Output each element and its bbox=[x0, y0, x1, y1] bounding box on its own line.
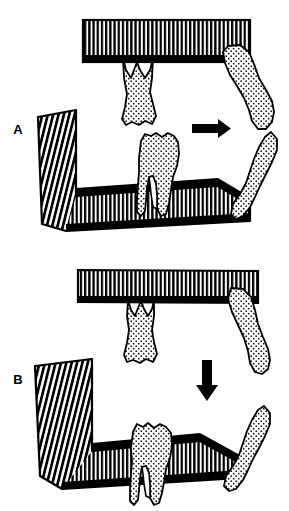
panel-b-lower-molar bbox=[130, 423, 172, 505]
panel-b-lower-molar-tipped bbox=[224, 406, 270, 491]
dental-diagram-figure: A bbox=[0, 0, 289, 511]
panel-a: A bbox=[13, 20, 277, 231]
panel-b-upper-molar-tipped bbox=[228, 288, 270, 374]
panel-b-label: B bbox=[13, 372, 22, 387]
panel-b: B bbox=[13, 270, 270, 505]
panel-a-upper-molar-tipped bbox=[223, 45, 274, 129]
panel-a-lower-molar-tipped bbox=[231, 132, 277, 219]
panel-a-upper-premolar bbox=[122, 58, 156, 125]
panel-b-overeruption-arrow bbox=[196, 360, 218, 401]
panel-a-drift-arrow bbox=[192, 119, 231, 138]
panel-b-upper-premolar bbox=[124, 300, 157, 363]
figure-canvas: A bbox=[0, 0, 289, 511]
panel-a-label: A bbox=[13, 122, 23, 137]
